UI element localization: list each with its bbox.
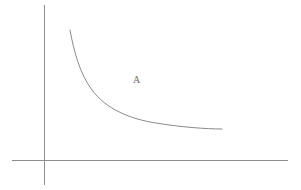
diagram-canvas: A (0, 0, 301, 190)
curve-label-a: A (133, 75, 140, 85)
curve-diagram (0, 0, 301, 190)
curve-a (70, 30, 222, 129)
